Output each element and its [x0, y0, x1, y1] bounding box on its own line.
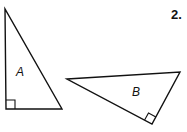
triangle-a-label: A: [15, 65, 24, 79]
diagram-canvas: 2. A B: [0, 0, 187, 132]
triangle-a: A: [5, 9, 62, 109]
triangle-b-label: B: [132, 85, 140, 99]
problem-number: 2.: [171, 7, 182, 22]
triangle-b-outline: [67, 72, 180, 124]
triangle-b: B: [67, 72, 180, 124]
triangle-a-outline: [5, 9, 62, 109]
right-angle-marker-icon: [6, 100, 15, 109]
